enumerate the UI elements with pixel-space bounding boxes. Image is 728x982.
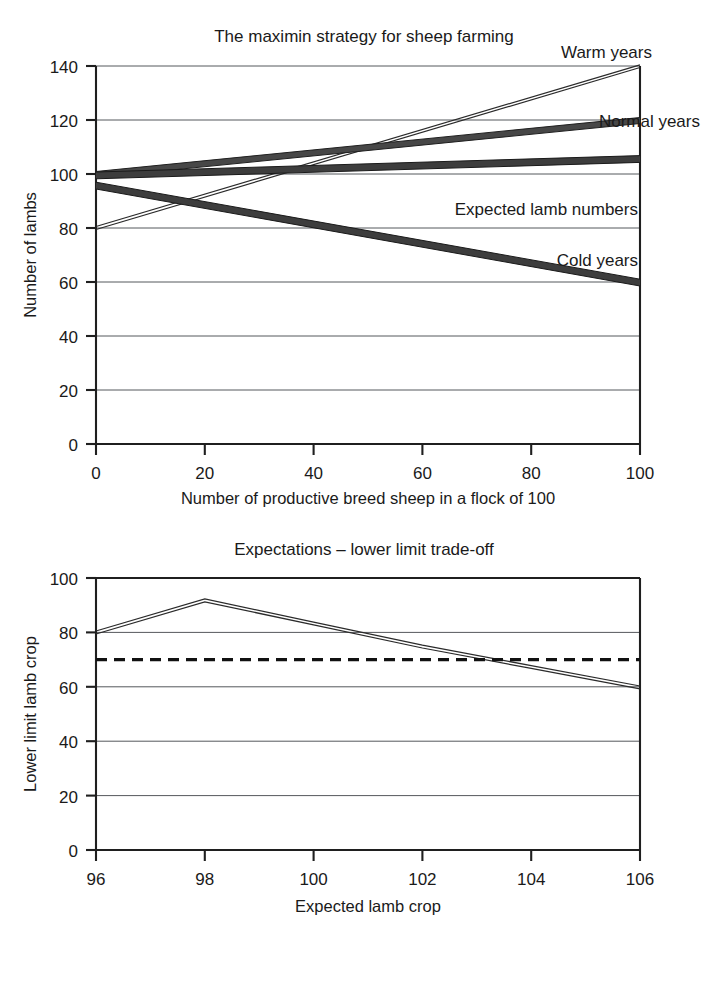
chart-top-ytick-labels: 0 20 40 60 80 100 120 140: [50, 58, 78, 455]
chart-top-title: The maximin strategy for sheep farming: [214, 27, 514, 46]
ytick-label: 100: [50, 166, 78, 185]
xtick-label: 100: [299, 870, 327, 889]
series-cold-years: [96, 182, 640, 286]
chart-top-xlabel: Number of productive breed sheep in a fl…: [181, 489, 555, 507]
ytick-label: 20: [59, 788, 78, 807]
cold-years-label: Cold years: [557, 251, 638, 270]
xtick-label: 0: [91, 464, 100, 483]
ytick-label: 40: [59, 733, 78, 752]
xtick-label: 104: [517, 870, 545, 889]
normal-years-label: Normal years: [599, 112, 700, 131]
ytick-label: 100: [50, 570, 78, 589]
ytick-label: 120: [50, 112, 78, 131]
chart-bottom-gridlines: [96, 578, 640, 850]
chart-maximin-strategy: The maximin strategy for sheep farming: [0, 0, 728, 512]
series-lower-limit-curve: [96, 599, 640, 689]
xtick-label: 96: [87, 870, 106, 889]
chart-bottom-canvas: Expectations – lower limit trade-off: [0, 512, 728, 982]
ytick-label: 140: [50, 58, 78, 77]
xtick-label: 98: [195, 870, 214, 889]
chart-bottom-xtick-labels: 96 98 100 102 104 106: [87, 870, 655, 889]
warm-years-label: Warm years: [561, 43, 652, 62]
chart-bottom-ylabel: Lower limit lamb crop: [21, 636, 39, 792]
chart-bottom-ytick-labels: 0 20 40 60 80 100: [50, 570, 78, 861]
chart-bottom-axes: [86, 578, 640, 861]
chart-expectations-tradeoff: Expectations – lower limit trade-off: [0, 512, 728, 982]
ytick-label: 60: [59, 274, 78, 293]
xtick-label: 80: [522, 464, 541, 483]
ytick-label: 40: [59, 328, 78, 347]
xtick-label: 40: [304, 464, 323, 483]
chart-bottom-xlabel: Expected lamb crop: [295, 897, 441, 915]
ytick-label: 20: [59, 382, 78, 401]
xtick-label: 102: [408, 870, 436, 889]
xtick-label: 106: [626, 870, 654, 889]
ytick-label: 80: [59, 220, 78, 239]
xtick-label: 100: [626, 464, 654, 483]
chart-bottom-title: Expectations – lower limit trade-off: [234, 540, 494, 559]
chart-top-xtick-labels: 0 20 40 60 80 100: [91, 464, 654, 483]
ytick-label: 80: [59, 624, 78, 643]
xtick-label: 60: [413, 464, 432, 483]
expected-lamb-numbers-label: Expected lamb numbers: [455, 200, 638, 219]
ytick-label: 60: [59, 679, 78, 698]
chart-top-canvas: The maximin strategy for sheep farming: [0, 0, 728, 512]
chart-top-ylabel: Number of lambs: [21, 192, 39, 318]
xtick-label: 20: [195, 464, 214, 483]
ytick-label: 0: [69, 436, 78, 455]
ytick-label: 0: [69, 842, 78, 861]
